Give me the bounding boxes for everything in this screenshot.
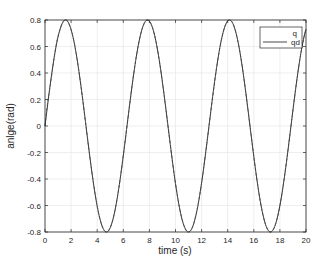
- x-tick-label: 18: [275, 236, 284, 245]
- x-tick-label: 10: [171, 236, 180, 245]
- x-tick-label: 12: [197, 236, 206, 245]
- y-tick-label: -0.2: [27, 149, 41, 158]
- x-tick-label: 6: [121, 236, 126, 245]
- x-tick-label: 8: [147, 236, 152, 245]
- x-tick-label: 0: [43, 236, 48, 245]
- y-tick-label: 0: [37, 122, 42, 131]
- y-tick-label: -0.8: [27, 228, 41, 237]
- y-tick-label: 0.6: [30, 43, 42, 52]
- x-tick-label: 14: [223, 236, 232, 245]
- x-axis-label: time (s): [158, 245, 191, 256]
- y-axis-label: anlge(rad): [5, 103, 16, 149]
- y-tick-labels: -0.8-0.6-0.4-0.200.20.40.60.8: [27, 16, 41, 237]
- legend-label-q: q: [293, 29, 297, 38]
- x-tick-label: 16: [249, 236, 258, 245]
- x-tick-label: 4: [95, 236, 100, 245]
- figure: 02468101214161820 -0.8-0.6-0.4-0.200.20.…: [0, 0, 326, 269]
- y-tick-label: -0.4: [27, 175, 41, 184]
- grid-lines: [45, 20, 306, 232]
- x-tick-labels: 02468101214161820: [43, 236, 311, 245]
- legend[interactable]: q qd: [260, 27, 302, 48]
- y-tick-label: 0.8: [30, 16, 42, 25]
- y-tick-label: 0.2: [30, 96, 42, 105]
- x-tick-label: 2: [69, 236, 74, 245]
- y-tick-label: -0.6: [27, 202, 41, 211]
- x-tick-label: 20: [302, 236, 311, 245]
- legend-label-qd: qd: [291, 38, 300, 47]
- y-tick-label: 0.4: [30, 69, 42, 78]
